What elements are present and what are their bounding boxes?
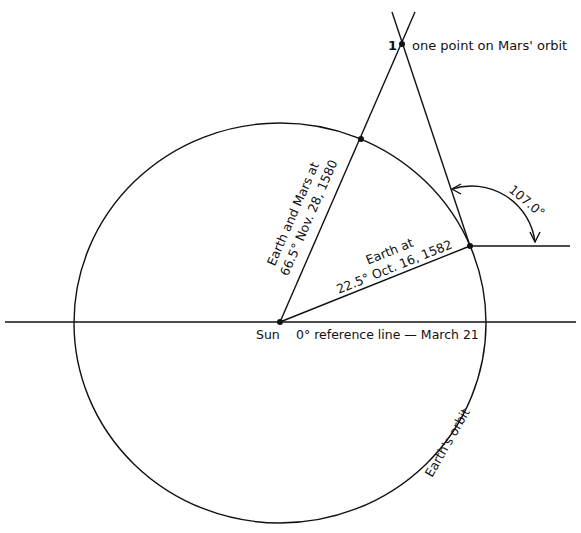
sun-point: [277, 319, 283, 325]
earth-1580-point: [358, 136, 364, 142]
mars-point: [399, 41, 405, 47]
diagram-canvas: 1 one point on Mars' orbit Earth and Mar…: [0, 0, 581, 533]
earth-1582-point: [467, 243, 473, 249]
earth-orbit-label: Earth's orbit: [422, 406, 473, 480]
sun-label: Sun: [256, 327, 280, 342]
mars-point-number: 1: [388, 38, 397, 53]
arrowhead-bottom-icon: [530, 232, 540, 242]
arrowhead-top-icon: [452, 184, 461, 194]
mars-point-label: one point on Mars' orbit: [412, 38, 567, 53]
reference-line-label: 0° reference line — March 21: [296, 327, 479, 342]
